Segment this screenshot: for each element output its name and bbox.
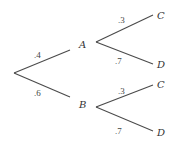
node-b-c-label: C [157, 79, 165, 90]
probability-tree-diagram: A B C D C D .4 .6 .3 .7 .3 .7 [0, 0, 173, 145]
node-b-label: B [78, 99, 86, 110]
edge-b-c-probability: .3 [118, 86, 125, 96]
edge-root-to-a [14, 50, 70, 73]
edge-b-d-probability: .7 [115, 126, 122, 136]
edge-root-b-probability: .6 [34, 88, 41, 98]
edge-root-a-probability: .4 [34, 50, 41, 60]
edge-b-to-d [96, 107, 153, 131]
node-b-d-label: D [156, 127, 165, 138]
edge-a-c-probability: .3 [118, 15, 125, 25]
edge-root-to-b [14, 73, 70, 97]
node-a-c-label: C [157, 10, 165, 21]
node-a-label: A [78, 39, 86, 50]
edge-a-d-probability: .7 [115, 56, 122, 66]
node-a-d-label: D [156, 59, 165, 70]
edge-a-to-d [96, 42, 153, 64]
